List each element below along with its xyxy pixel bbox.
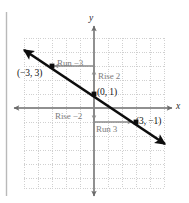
annotation-label-rise-negative-2: Rise −2 xyxy=(55,112,82,121)
point-label-0-1: (0, 1) xyxy=(97,88,117,98)
point-neg3-3 xyxy=(50,64,55,69)
slope-graph-figure: (−3, 3) (0, 1) (3, −1) Run −3 Rise 2 Ris… xyxy=(0,0,189,203)
x-axis-label: x xyxy=(176,102,180,112)
annotation-label-run-3: Run 3 xyxy=(96,125,117,134)
graph-canvas xyxy=(0,0,189,203)
y-axis-label: y xyxy=(89,14,93,24)
annotation-label-rise-2: Rise 2 xyxy=(98,72,120,81)
annotation-label-run-negative-3: Run −3 xyxy=(57,59,83,68)
point-0-1 xyxy=(92,92,97,97)
point-label-neg3-3: (−3, 3) xyxy=(17,69,42,79)
point-label-3-neg1: (3, −1) xyxy=(136,117,161,127)
